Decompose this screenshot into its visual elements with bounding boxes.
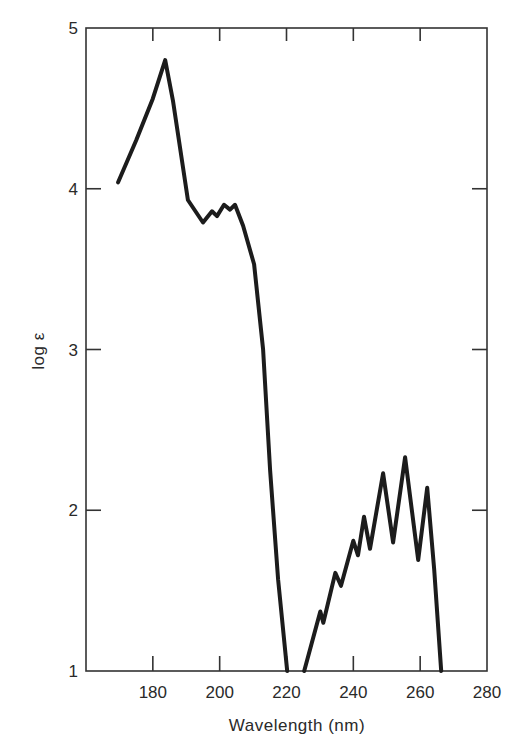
plot-frame [86, 28, 487, 671]
x-tick-label: 200 [205, 683, 233, 702]
x-tick-label: 240 [339, 683, 367, 702]
spectrum-line [304, 457, 441, 671]
y-tick-label: 1 [69, 662, 78, 681]
x-tick-label: 220 [272, 683, 300, 702]
x-tick-label: 260 [406, 683, 434, 702]
spectrum-chart: 18020022024026028012345 Wavelength (nm) … [0, 0, 518, 754]
y-axis-title: log ε [29, 332, 48, 370]
x-tick-label: 180 [139, 683, 167, 702]
y-tick-label: 5 [69, 19, 78, 38]
axis-ticks [86, 28, 487, 671]
x-tick-label: 280 [473, 683, 501, 702]
y-tick-label: 2 [69, 501, 78, 520]
x-axis-title: Wavelength (nm) [229, 716, 365, 735]
y-tick-label: 3 [69, 341, 78, 360]
y-tick-label: 4 [69, 180, 78, 199]
data-curves [118, 60, 441, 671]
spectrum-line [118, 60, 287, 671]
